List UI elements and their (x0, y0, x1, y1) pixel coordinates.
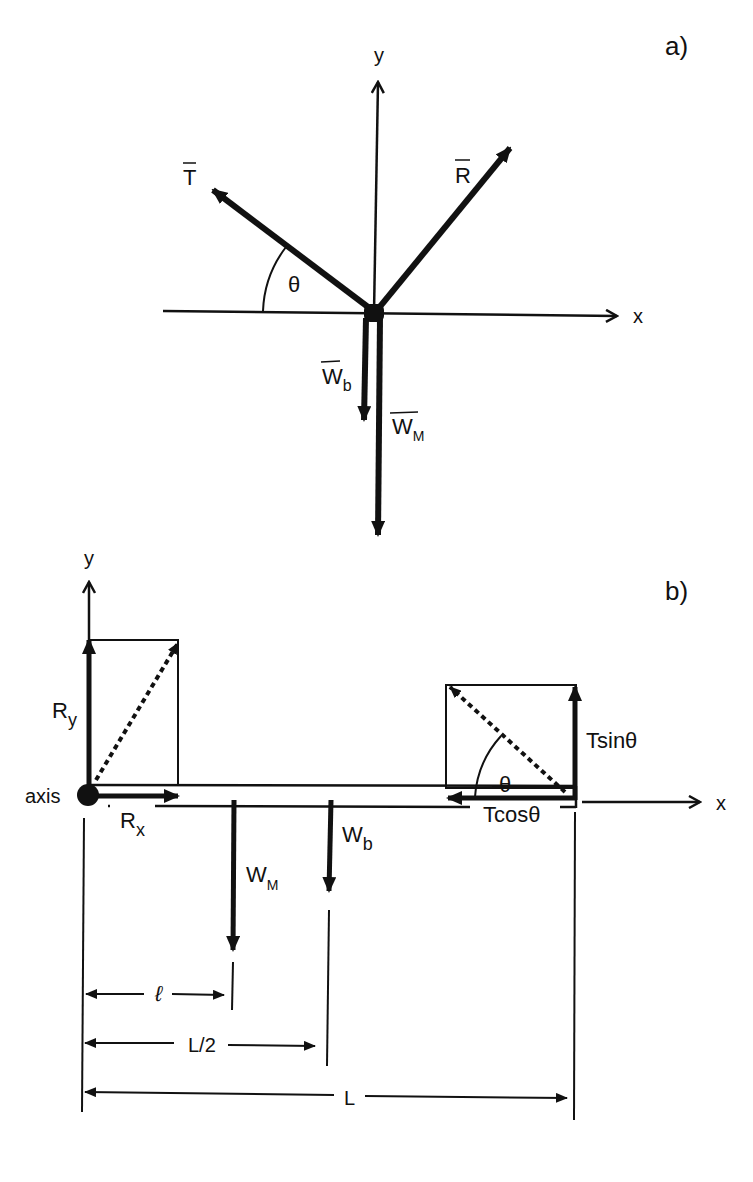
vector-r-label: R (455, 163, 471, 188)
beam-bottom-edge (155, 806, 470, 807)
pivot-axis-point (77, 784, 99, 806)
vector-tsin-label: Tsinθ (586, 728, 637, 753)
dim-full-right-arrow (365, 1096, 567, 1098)
free-body-diagram: a) y x T R θ Wb WM b) y (0, 0, 753, 1182)
panel-b: b) y x Ry Rx axis Tsinθ Tcosθ (25, 547, 726, 1120)
vector-wm (378, 318, 380, 535)
vector-tcos-label: Tcosθ (483, 802, 540, 827)
vector-r-resultant (96, 643, 178, 780)
ext-line-wb (327, 910, 329, 1066)
vector-wm-label: WM (392, 414, 424, 444)
vector-rx-label: Rx (120, 808, 145, 840)
ext-line-pivot (82, 818, 84, 1112)
b-x-axis-label: x (716, 792, 726, 814)
b-theta-label: θ (499, 772, 511, 797)
panel-a-label: a) (665, 31, 688, 61)
vector-wm-b-label: WM (246, 862, 278, 893)
a-y-axis (374, 82, 378, 313)
vector-wb-b (329, 800, 331, 891)
a-x-axis-label: x (633, 305, 643, 327)
dim-full-label: L (344, 1087, 355, 1109)
dim-half-label: L/2 (188, 1034, 216, 1056)
vector-wb-arrow-bar (321, 361, 340, 362)
panel-a: a) y x T R θ Wb WM (163, 31, 688, 535)
dim-l-right-arrow (172, 994, 224, 995)
vector-t-label: T (183, 165, 196, 190)
vector-ry-label: Ry (52, 698, 77, 730)
pivot-axis-label: axis (25, 785, 61, 807)
vector-wb-label: Wb (322, 364, 352, 394)
ext-line-end (574, 812, 575, 1120)
dim-half-right-arrow (228, 1045, 315, 1046)
a-x-axis (163, 311, 617, 316)
vector-wb-b-label: Wb (342, 822, 373, 854)
dim-full-left-arrow (85, 1092, 334, 1095)
a-theta-arc (263, 247, 286, 311)
vector-wm-b (233, 800, 234, 950)
panel-b-label: b) (665, 576, 688, 606)
b-y-axis-label: y (84, 547, 94, 569)
vector-r (378, 148, 510, 309)
vector-wm-arrow-bar (390, 412, 418, 413)
vector-wb (364, 318, 366, 420)
a-y-axis-label: y (374, 44, 384, 66)
ext-line-wm (232, 962, 233, 1010)
a-theta-label: θ (288, 272, 300, 297)
dim-l-label: ℓ (154, 981, 163, 1006)
